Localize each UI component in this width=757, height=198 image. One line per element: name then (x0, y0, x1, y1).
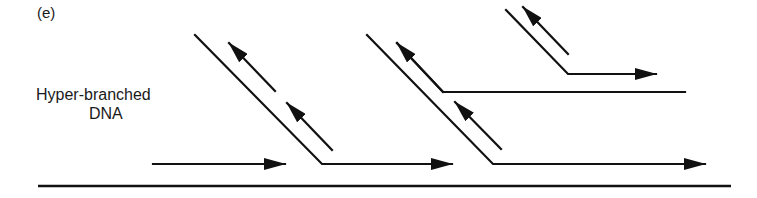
hyperbranched-dna-diagram (0, 0, 757, 198)
top-branch (506, 10, 656, 74)
up-arrow-1b (287, 103, 332, 150)
up-arrow-2a (397, 43, 443, 92)
displaced-strand-1 (195, 35, 452, 164)
up-arrow-1a (229, 43, 275, 91)
displaced-strand-2 (367, 35, 705, 164)
branch-strand (397, 43, 685, 92)
up-arrow-3 (523, 7, 568, 54)
up-arrow-2b (455, 102, 501, 149)
